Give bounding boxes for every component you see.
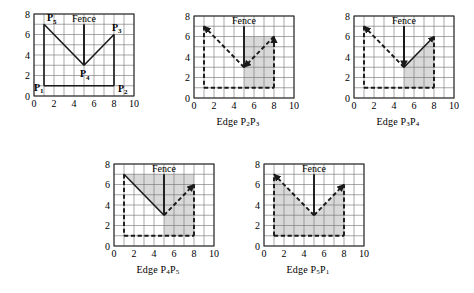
x-tick-label: 10 (289, 100, 299, 111)
y-tick-label: 2 (25, 70, 30, 81)
y-tick-label: 6 (345, 31, 350, 42)
x-tick-label: 2 (282, 248, 287, 259)
x-tick-label: 8 (342, 248, 347, 259)
y-tick-label: 4 (105, 200, 110, 211)
panel-polygon-plot: 024681002468FenceP1P2P3P4P5 (18, 8, 138, 112)
fence-label: Fence (232, 15, 256, 26)
panel-edge-p4p5-caption: Edge P4P5 (98, 264, 218, 276)
vertex-label-p2: P2 (118, 83, 128, 97)
x-tick-label: 4 (392, 100, 397, 111)
x-tick-label: 4 (302, 248, 307, 259)
x-tick-label: 6 (252, 100, 257, 111)
x-tick-label: 10 (359, 248, 369, 259)
x-tick-label: 0 (262, 248, 267, 259)
panel-edge-p5p1-plot: 024681002468Fence (248, 158, 368, 262)
y-tick-label: 2 (255, 220, 260, 231)
panel-edge-p4p5-plot: 024681002468Fence (98, 158, 218, 262)
y-tick-label: 2 (185, 72, 190, 83)
panel-edge-p5p1-caption: Edge P5P1 (248, 264, 368, 276)
polygon-edge-p3-p4 (84, 35, 114, 66)
figure-sheet: 024681002468FenceP1P2P3P4P5024681002468F… (0, 0, 474, 293)
x-tick-label: 8 (272, 100, 277, 111)
y-tick-label: 8 (185, 11, 190, 22)
y-tick-label: 8 (105, 159, 110, 170)
vertex-label-p1: P1 (34, 82, 44, 96)
y-tick-label: 0 (105, 241, 110, 252)
x-tick-label: 6 (92, 98, 97, 109)
y-tick-label: 0 (255, 241, 260, 252)
x-tick-label: 2 (212, 100, 217, 111)
y-tick-label: 2 (105, 220, 110, 231)
y-tick-label: 8 (25, 9, 30, 20)
x-tick-label: 4 (232, 100, 237, 111)
panel-edge-p2p3: 024681002468Fence (178, 10, 298, 114)
fence-label: Fence (72, 13, 96, 24)
x-tick-label: 2 (132, 248, 137, 259)
y-tick-label: 0 (185, 93, 190, 104)
x-tick-label: 4 (152, 248, 157, 259)
panel-polygon: 024681002468FenceP1P2P3P4P5 (18, 8, 138, 112)
x-tick-label: 0 (112, 248, 117, 259)
panel-edge-p2p3-plot: 024681002468Fence (178, 10, 298, 114)
x-tick-label: 6 (412, 100, 417, 111)
x-tick-label: 0 (192, 100, 197, 111)
y-tick-label: 6 (255, 179, 260, 190)
x-tick-label: 2 (372, 100, 377, 111)
x-tick-label: 6 (172, 248, 177, 259)
y-tick-label: 4 (185, 52, 190, 63)
y-tick-label: 6 (25, 29, 30, 40)
fence-label: Fence (152, 163, 176, 174)
y-tick-label: 6 (185, 31, 190, 42)
x-tick-label: 8 (112, 98, 117, 109)
x-tick-label: 10 (209, 248, 219, 259)
vertex-label-p4: P4 (80, 68, 90, 82)
panel-edge-p5p1: 024681002468Fence (248, 158, 368, 262)
x-tick-label: 0 (352, 100, 357, 111)
x-tick-label: 10 (129, 98, 139, 109)
fence-label: Fence (302, 163, 326, 174)
x-tick-label: 0 (32, 98, 37, 109)
y-tick-label: 0 (25, 91, 30, 102)
vertex-label-p3: P3 (112, 22, 122, 36)
panel-edge-p2p3-caption: Edge P2P3 (178, 116, 298, 128)
y-tick-label: 4 (25, 50, 30, 61)
y-tick-label: 6 (105, 179, 110, 190)
y-tick-label: 0 (345, 93, 350, 104)
panel-edge-p3p4-caption: Edge P3P4 (338, 116, 458, 128)
y-tick-label: 4 (345, 52, 350, 63)
fence-label: Fence (392, 15, 416, 26)
x-tick-label: 6 (322, 248, 327, 259)
panel-edge-p4p5: 024681002468Fence (98, 158, 218, 262)
y-tick-label: 4 (255, 200, 260, 211)
panel-edge-p3p4: 024681002468Fence (338, 10, 458, 114)
x-tick-label: 2 (52, 98, 57, 109)
y-tick-label: 8 (345, 11, 350, 22)
x-tick-label: 10 (449, 100, 459, 111)
y-tick-label: 2 (345, 72, 350, 83)
x-tick-label: 4 (72, 98, 77, 109)
panel-edge-p3p4-plot: 024681002468Fence (338, 10, 458, 114)
y-tick-label: 8 (255, 159, 260, 170)
x-tick-label: 8 (192, 248, 197, 259)
x-tick-label: 8 (432, 100, 437, 111)
